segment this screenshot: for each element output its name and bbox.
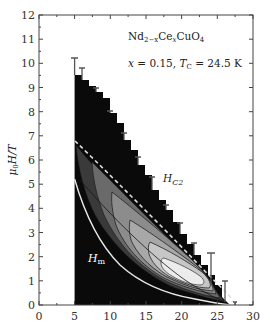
param-eq: = 0.15,	[134, 57, 180, 69]
hm-h: H	[87, 252, 98, 265]
x-tick-label: 5	[71, 310, 78, 323]
param-val: = 24.5 K	[192, 57, 242, 69]
y-tick-label: 5	[28, 178, 35, 191]
y-tick-label: 7	[28, 130, 35, 143]
y-axis-label-rest: H/T	[6, 144, 18, 166]
x-tick-label: 10	[103, 310, 117, 323]
x-tick-label: 15	[139, 310, 153, 323]
hc2-label: HC2	[162, 172, 183, 187]
x-tick-label: 30	[246, 310, 260, 323]
y-tick-label: 3	[28, 227, 35, 240]
plot-area	[75, 75, 233, 305]
y-tick-label: 2	[28, 251, 35, 264]
y-tick-label: 12	[21, 9, 35, 22]
y-axis-label: μ0H/T	[6, 144, 20, 176]
y-tick-label: 0	[28, 299, 35, 312]
y-tick-label: 6	[28, 154, 35, 167]
parameters-label: x = 0.15, TC = 24.5 K	[128, 57, 242, 71]
y-tick-label: 8	[28, 106, 35, 119]
compound-nd: Nd	[128, 30, 144, 42]
phase-diagram-chart: 0 5 10 15 20 25 30 0 1 2 3 4 5 6 7 8 9 1…	[0, 0, 270, 331]
y-tick-label: 10	[21, 57, 35, 70]
compound-ce: Ce	[158, 30, 172, 42]
x-tick-label: 20	[175, 310, 189, 323]
compound-cuo: CuO	[176, 30, 200, 42]
compound-sub3: 4	[200, 36, 205, 44]
x-tick-labels: 0 5 10 15 20 25 30	[36, 310, 261, 323]
y-tick-label: 1	[28, 275, 35, 288]
y-tick-label: 11	[21, 33, 35, 46]
compound-sub1: 2−x	[144, 36, 158, 44]
y-tick-label: 4	[28, 202, 35, 215]
compound-label: Nd2−xCexCuO4	[128, 30, 205, 44]
y-tick-label: 9	[28, 82, 35, 95]
hm-sub: m	[98, 257, 106, 266]
hc2-sub: C2	[172, 178, 183, 187]
x-tick-label: 25	[210, 310, 224, 323]
x-tick-label: 0	[36, 310, 43, 323]
error-bar	[71, 58, 78, 75]
y-tick-labels: 0 1 2 3 4 5 6 7 8 9 10 11 12	[21, 9, 35, 312]
